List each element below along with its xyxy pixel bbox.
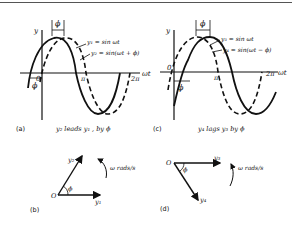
phasor-y3-label: y₃: [213, 154, 221, 162]
panel-b-phasor: ϕ O y₁ y₂ ω rads/s (b): [30, 156, 135, 214]
two-pi-label: 2π: [130, 75, 140, 83]
two-pi-label: 2π: [265, 70, 275, 78]
panel-c-caption: y₄ lags y₃ by ϕ: [197, 125, 245, 133]
origin-label: O: [166, 159, 172, 167]
panel-d-tag: (d): [160, 205, 169, 213]
phi-top-label: ϕ: [200, 19, 206, 28]
panel-a-waveforms: ϕ ϕ y ωt 0 π 2π y₁ = sin ωt y₂ = sin(ωt …: [16, 19, 151, 133]
panel-a-tag: (a): [16, 125, 25, 133]
phase-diagram: ϕ ϕ y ωt 0 π 2π y₁ = sin ωt y₂ = sin(ωt …: [0, 0, 306, 227]
curve1-label: y₃ = sin ωt: [220, 35, 254, 43]
phasor-y2-label: y₂: [67, 156, 75, 164]
phi-bottom-label: ϕ: [178, 83, 184, 92]
origin-label: 0: [36, 75, 41, 83]
curve1-label: y₁ = sin ωt: [86, 38, 120, 46]
x-axis-label: ωt: [278, 69, 287, 77]
angle-label: ϕ: [183, 166, 188, 174]
phi-top-label: ϕ: [55, 19, 61, 28]
panel-b-tag: (b): [30, 206, 39, 214]
phasor-y4-label: y₄: [199, 196, 207, 204]
panel-a-caption: y₂ leads y₁ , by ϕ: [55, 125, 111, 133]
x-axis-label: ωt: [142, 70, 151, 78]
panel-c-waveforms: ϕ ϕ y ωt 0 π 2π y₃ = sin ωt y₄ = sin(ωt …: [153, 19, 287, 133]
pi-label: π: [213, 74, 219, 82]
rotation-arrow-icon: [230, 164, 233, 186]
rotation-label: ω rads/s: [110, 164, 135, 171]
origin-label: O: [51, 192, 57, 200]
curve2-label: y₄ = sin(ωt − ϕ): [222, 46, 272, 54]
curve2-label: y₂ = sin(ωt + ϕ): [90, 49, 140, 57]
pi-label: π: [80, 75, 86, 83]
origin-label: 0: [167, 64, 172, 72]
rotation-label: ω rads/s: [238, 164, 263, 171]
panel-d-phasor: ϕ O y₃ y₄ ω rads/s (d): [160, 154, 263, 213]
y-axis-label: y: [33, 27, 39, 35]
panel-c-tag: (c): [153, 125, 162, 133]
angle-label: ϕ: [68, 185, 73, 193]
phasor-y1-label: y₁: [94, 198, 101, 206]
rotation-arrow-icon: [98, 159, 107, 178]
y-axis-label: y: [165, 27, 171, 35]
